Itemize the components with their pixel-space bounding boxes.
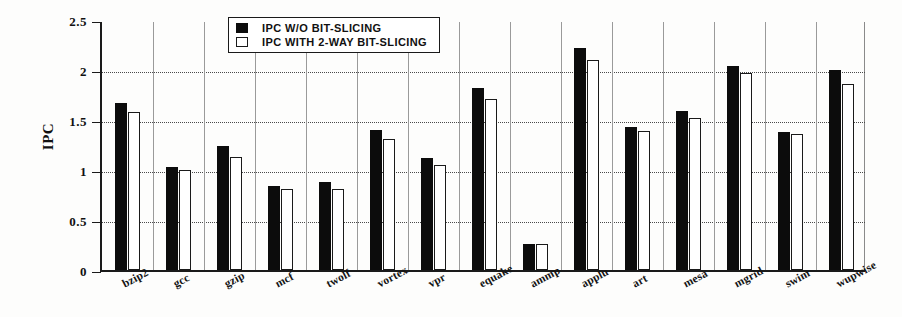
bar-group bbox=[561, 22, 612, 270]
bar-gcc-series2 bbox=[179, 170, 192, 270]
x-axis-label-gzip: gzip bbox=[222, 269, 246, 290]
bar-group bbox=[816, 22, 867, 270]
legend-label: IPC WITH 2-WAY BIT-SLICING bbox=[262, 36, 427, 48]
bar-group bbox=[408, 22, 459, 270]
bar-group bbox=[102, 22, 153, 270]
bar-group bbox=[153, 22, 204, 270]
y-axis-tick: 1 bbox=[92, 172, 101, 173]
y-axis-tick-label: 0 bbox=[80, 264, 87, 280]
bar-gcc-series1 bbox=[166, 167, 179, 270]
x-axis-label-mcf: mcf bbox=[273, 270, 296, 290]
bar-twolf-series1 bbox=[319, 182, 332, 270]
bar-group bbox=[612, 22, 663, 270]
bar-group bbox=[204, 22, 255, 270]
bar-group bbox=[357, 22, 408, 270]
bar-vortex-series2 bbox=[383, 139, 396, 270]
bar-group bbox=[459, 22, 510, 270]
bar-applu-series2 bbox=[587, 60, 600, 270]
bar-mesa-series2 bbox=[689, 118, 702, 270]
y-axis-tick-label: 2 bbox=[80, 64, 87, 80]
chart-figure: IPC 00.511.522.5 bzip2gccgzipmcftwolfvor… bbox=[0, 0, 902, 317]
bar-ammp-series1 bbox=[523, 244, 536, 270]
bar-group bbox=[714, 22, 765, 270]
bar-art-series2 bbox=[638, 131, 651, 270]
bar-group bbox=[510, 22, 561, 270]
y-axis-tick-label: 2.5 bbox=[69, 14, 87, 30]
y-axis-tick: 2 bbox=[92, 72, 101, 73]
y-axis-tick: 0.5 bbox=[92, 222, 101, 223]
bar-vpr-series1 bbox=[421, 158, 434, 270]
chart-legend: IPC W/O BIT-SLICINGIPC WITH 2-WAY BIT-SL… bbox=[228, 17, 440, 53]
bar-group bbox=[255, 22, 306, 270]
bar-equake-series1 bbox=[472, 88, 485, 270]
y-axis-tick-label: 1 bbox=[80, 164, 87, 180]
x-axis-label-gcc: gcc bbox=[171, 271, 191, 289]
bar-mgrid-series2 bbox=[740, 73, 753, 270]
bar-gzip-series2 bbox=[230, 157, 243, 270]
y-axis-tick: 2.5 bbox=[92, 22, 101, 23]
legend-label: IPC W/O BIT-SLICING bbox=[262, 22, 381, 34]
plot-area: 00.511.522.5 bbox=[100, 22, 865, 272]
empty-square-icon bbox=[236, 37, 248, 47]
bar-mesa-series1 bbox=[676, 111, 689, 270]
y-axis-tick: 0 bbox=[92, 272, 101, 273]
bar-gzip-series1 bbox=[217, 146, 230, 270]
bar-ammp-series2 bbox=[536, 244, 549, 270]
x-axis-label-art: art bbox=[630, 272, 649, 290]
bar-applu-series1 bbox=[574, 48, 587, 270]
bar-vpr-series2 bbox=[434, 165, 447, 270]
bar-wupwise-series1 bbox=[829, 70, 842, 270]
x-axis-label-vpr: vpr bbox=[426, 271, 447, 290]
bar-equake-series2 bbox=[485, 99, 498, 270]
bar-mcf-series1 bbox=[268, 186, 281, 270]
filled-square-icon bbox=[236, 23, 248, 33]
y-axis-tick-label: 1.5 bbox=[69, 114, 87, 130]
bar-wupwise-series2 bbox=[842, 84, 855, 270]
y-axis-tick: 1.5 bbox=[92, 122, 101, 123]
bar-bzip2-series2 bbox=[128, 112, 141, 270]
bar-twolf-series2 bbox=[332, 189, 345, 270]
bar-swim-series1 bbox=[778, 132, 791, 270]
bar-group bbox=[306, 22, 357, 270]
bar-mgrid-series1 bbox=[727, 66, 740, 270]
y-axis-title: IPC bbox=[40, 107, 57, 167]
y-axis-tick-label: 0.5 bbox=[69, 214, 87, 230]
bar-series-container bbox=[102, 22, 865, 270]
bar-bzip2-series1 bbox=[115, 103, 128, 270]
legend-item: IPC W/O BIT-SLICING bbox=[236, 21, 427, 35]
bar-group bbox=[765, 22, 816, 270]
bar-art-series1 bbox=[625, 127, 638, 270]
bar-vortex-series1 bbox=[370, 130, 383, 270]
bar-swim-series2 bbox=[791, 134, 804, 270]
legend-item: IPC WITH 2-WAY BIT-SLICING bbox=[236, 35, 427, 49]
bar-group bbox=[663, 22, 714, 270]
bar-mcf-series2 bbox=[281, 189, 294, 270]
